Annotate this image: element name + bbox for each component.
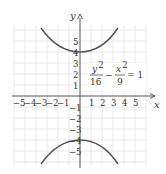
svg-text:5: 5 xyxy=(133,98,138,108)
svg-text:1: 1 xyxy=(89,98,94,108)
svg-text:2: 2 xyxy=(100,98,105,108)
svg-text:1: 1 xyxy=(73,81,78,91)
svg-text:−2: −2 xyxy=(69,114,82,124)
svg-text:−4: −4 xyxy=(69,136,82,146)
svg-text:16: 16 xyxy=(90,77,102,87)
svg-text:−3: −3 xyxy=(69,125,82,135)
svg-text:−1: −1 xyxy=(69,103,82,113)
svg-text:x: x xyxy=(116,64,121,74)
svg-text:3: 3 xyxy=(73,59,78,69)
svg-text:= 1: = 1 xyxy=(127,70,143,80)
svg-text:y: y xyxy=(91,64,98,74)
svg-text:3: 3 xyxy=(111,98,116,108)
svg-text:4: 4 xyxy=(73,48,78,58)
svg-text:2: 2 xyxy=(122,60,128,70)
axes xyxy=(12,18,155,168)
svg-text:5: 5 xyxy=(73,37,78,47)
equation: y 2 16 − x 2 9 = 1 xyxy=(88,60,146,90)
svg-text:2: 2 xyxy=(73,70,78,80)
svg-text:−: − xyxy=(105,70,113,80)
svg-text:2: 2 xyxy=(98,60,104,70)
svg-text:4: 4 xyxy=(122,98,127,108)
x-axis-label: x xyxy=(154,99,160,110)
svg-text:−1: −1 xyxy=(57,98,70,108)
svg-text:−5: −5 xyxy=(69,147,82,157)
hyperbola-graph: x y −5 −4 −3 −2 −1 1 2 3 4 5 1 2 3 4 5 −… xyxy=(0,0,166,174)
y-axis-label: y xyxy=(69,10,76,21)
svg-text:9: 9 xyxy=(117,77,123,87)
